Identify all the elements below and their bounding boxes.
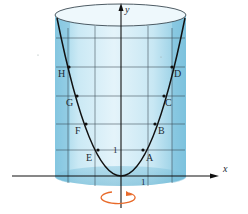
point-label-g: G [66,97,73,108]
point-label-f: F [75,125,81,136]
point-label-e: E [86,152,92,163]
point-label-d: D [174,68,181,79]
x-axis-label: x [222,163,228,174]
unit-tick-x-label: 1 [141,177,146,187]
point-label-c: C [165,97,172,108]
point-label-b: B [158,125,165,136]
point-label-h: H [58,68,65,79]
y-axis-label: y [124,4,130,15]
diagram-figure: A B C D E F G H y x 1 1 [0,0,248,214]
scan-speck [160,56,161,57]
rotation-arrow-icon [101,191,135,204]
unit-tick-y-label: 1 [113,145,118,155]
x-axis-arrow-icon [210,174,219,179]
point-label-a: A [146,152,154,163]
diagram-canvas: A B C D E F G H y x 1 1 [0,0,248,214]
scan-speck [37,54,38,55]
